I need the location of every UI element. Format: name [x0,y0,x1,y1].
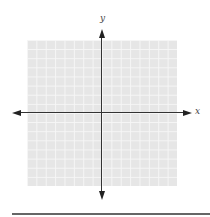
x-axis-left-arrow-icon [12,110,21,116]
y-axis [101,34,102,194]
x-axis-label: x [195,106,200,116]
y-axis-down-arrow-icon [99,191,105,200]
answer-line [12,213,210,215]
grid-background [27,40,177,186]
y-axis-label: y [100,13,105,23]
y-axis-up-arrow-icon [99,29,105,38]
x-axis-right-arrow-icon [183,110,192,116]
x-axis [16,112,189,113]
